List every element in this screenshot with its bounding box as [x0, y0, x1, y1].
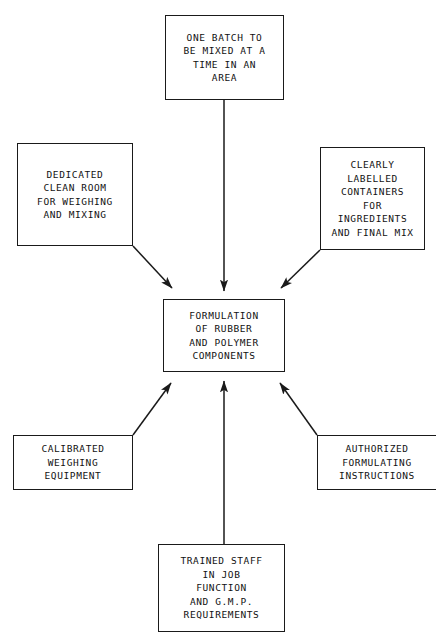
node-dedicated-clean-room[interactable]: DEDICATED CLEAN ROOM FOR WEIGHING AND MI…	[17, 143, 133, 246]
node-authorized-formulating-instructions-label: AUTHORIZED FORMULATING INSTRUCTIONS	[339, 442, 415, 483]
node-trained-staff-label: TRAINED STAFF IN JOB FUNCTION AND G.M.P.…	[180, 554, 262, 622]
node-clearly-labelled-containers-label: CLEARLY LABELLED CONTAINERS FOR INGREDIE…	[331, 158, 413, 239]
edge-containers-to-formulation	[281, 250, 320, 288]
diagram-canvas: ONE BATCH TO BE MIXED AT A TIME IN AN AR…	[0, 0, 436, 644]
node-one-batch-label: ONE BATCH TO BE MIXED AT A TIME IN AN AR…	[183, 31, 265, 85]
node-authorized-formulating-instructions[interactable]: AUTHORIZED FORMULATING INSTRUCTIONS	[317, 435, 436, 490]
node-formulation-center[interactable]: FORMULATION OF RUBBER AND POLYMER COMPON…	[163, 299, 285, 372]
edge-clean-room-to-formulation	[133, 246, 172, 288]
node-one-batch[interactable]: ONE BATCH TO BE MIXED AT A TIME IN AN AR…	[165, 15, 284, 100]
node-calibrated-weighing-equipment-label: CALIBRATED WEIGHING EQUIPMENT	[41, 442, 104, 483]
node-dedicated-clean-room-label: DEDICATED CLEAN ROOM FOR WEIGHING AND MI…	[37, 168, 113, 222]
node-formulation-center-label: FORMULATION OF RUBBER AND POLYMER COMPON…	[189, 309, 259, 363]
node-trained-staff[interactable]: TRAINED STAFF IN JOB FUNCTION AND G.M.P.…	[158, 544, 285, 632]
edge-calibrated-to-formulation	[133, 383, 171, 435]
node-clearly-labelled-containers[interactable]: CLEARLY LABELLED CONTAINERS FOR INGREDIE…	[320, 147, 425, 250]
node-calibrated-weighing-equipment[interactable]: CALIBRATED WEIGHING EQUIPMENT	[13, 435, 133, 490]
edge-authorized-to-formulation	[280, 383, 317, 435]
